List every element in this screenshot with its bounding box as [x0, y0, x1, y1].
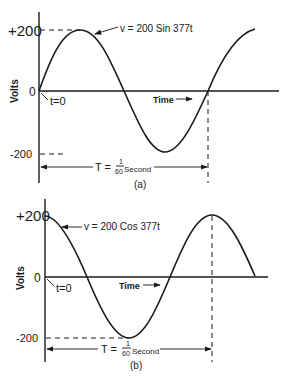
time-label: Time — [153, 95, 174, 105]
period-denominator: 60 — [122, 350, 130, 357]
t0-label: t=0 — [56, 282, 72, 294]
y-tick-zero: 0 — [34, 271, 41, 285]
svg-text:T =: T = — [101, 343, 117, 355]
period-label: T = 1 60 Second — [101, 340, 159, 357]
period-unit: Second — [132, 347, 159, 356]
y-tick-pos-200: +200 — [8, 22, 42, 39]
panel-a: +200 0 -200 Volts v = 200 Sin 377t t=0 T… — [8, 12, 279, 190]
y-tick-zero: 0 — [29, 85, 36, 99]
y-tick-pos-200: +200 — [16, 207, 50, 224]
svg-text:T =: T = — [95, 161, 111, 173]
panel-caption-a: (a) — [134, 179, 146, 190]
t0-pointer — [41, 93, 48, 100]
equation-label: v = 200 Sin 377t — [120, 23, 193, 34]
panel-b: +200 0 -200 Volts v = 200 Cos 377t t=0 T… — [15, 199, 268, 371]
t0-label: t=0 — [50, 95, 66, 107]
y-tick-neg-200: -200 — [16, 332, 38, 344]
period-numerator: 1 — [126, 340, 130, 347]
period-unit: Second — [124, 165, 151, 174]
equation-pointer-arrow — [95, 27, 118, 34]
y-axis-label: Volts — [15, 266, 26, 290]
equation-label: v = 200 Cos 377t — [84, 221, 160, 232]
period-numerator: 1 — [119, 158, 123, 165]
period-label: T = 1 60 Second — [95, 158, 151, 175]
y-axis-label: Volts — [9, 79, 20, 103]
time-label: Time — [119, 281, 140, 291]
period-denominator: 60 — [115, 168, 123, 175]
y-tick-neg-200: -200 — [10, 148, 32, 160]
sine-cosine-diagram: +200 0 -200 Volts v = 200 Sin 377t t=0 T… — [0, 0, 287, 382]
panel-caption-b: (b) — [130, 360, 142, 371]
t0-pointer — [47, 279, 54, 286]
